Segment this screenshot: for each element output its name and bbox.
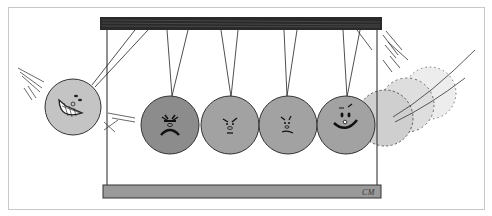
artist-signature: CM — [362, 188, 375, 197]
ball-smiling — [317, 96, 375, 154]
base-bar — [103, 185, 381, 198]
strings — [92, 30, 360, 97]
ball-angry — [141, 96, 199, 154]
newtons-cradle-illustration — [0, 0, 492, 216]
ball-swinging-grinning — [45, 79, 101, 135]
ball-worried — [259, 96, 317, 154]
top-bar — [100, 17, 382, 30]
ball-annoyed — [201, 96, 259, 154]
